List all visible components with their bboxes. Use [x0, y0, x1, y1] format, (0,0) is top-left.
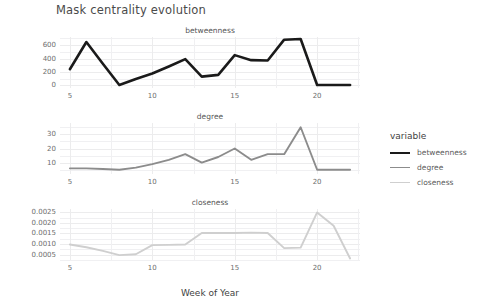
y-axis-tick-label: 400 [16, 55, 56, 63]
x-axis-tick-label: 15 [220, 178, 250, 186]
data-line [70, 127, 350, 170]
x-axis-tick-label: 10 [137, 92, 167, 100]
plot-area-closeness [60, 209, 360, 260]
panel-degree: degree 1020305101520 [60, 112, 360, 174]
y-axis-tick-label: 20 [16, 145, 56, 153]
legend-item[interactable]: betweenness [390, 148, 467, 157]
chart-title: Mask centrality evolution [56, 3, 206, 17]
x-axis-tick-label: 20 [302, 92, 332, 100]
legend-key-line-icon [390, 152, 410, 154]
legend-item-label: closeness [417, 178, 454, 187]
legend-item[interactable]: degree [390, 163, 467, 172]
legend-key-line-icon [390, 167, 410, 168]
x-axis-tick-label: 5 [55, 178, 85, 186]
x-axis-tick-label: 10 [137, 264, 167, 272]
panel-strip-label: degree [60, 112, 360, 121]
panel-strip-label: closeness [60, 198, 360, 207]
x-axis-tick-label: 20 [302, 178, 332, 186]
x-axis-tick-label: 15 [220, 92, 250, 100]
x-axis-tick-label: 10 [137, 178, 167, 186]
x-axis-tick-label: 5 [55, 92, 85, 100]
legend-item[interactable]: closeness [390, 178, 467, 187]
x-axis-title: Week of Year [60, 288, 360, 298]
data-line [70, 212, 350, 258]
y-axis-tick-label: 0 [16, 81, 56, 89]
plot-area-degree [60, 123, 360, 174]
y-axis-tick-label: 200 [16, 68, 56, 76]
y-axis-tick-label: 30 [16, 130, 56, 138]
series-line-betweenness [60, 37, 360, 90]
panel-strip-label: betweenness [60, 26, 360, 35]
x-axis-tick-label: 5 [55, 264, 85, 272]
data-line [70, 39, 350, 85]
y-axis-tick-label: 0.0015 [16, 229, 56, 237]
legend-title: variable [390, 131, 467, 141]
plot-area-betweenness [60, 37, 360, 88]
y-axis-tick-label: 0.0025 [16, 208, 56, 216]
y-axis-tick-label: 0.0010 [16, 240, 56, 248]
legend: variable betweennessdegreecloseness [390, 131, 467, 193]
series-line-degree [60, 123, 360, 176]
y-axis-tick-label: 600 [16, 41, 56, 49]
panel-betweenness: betweenness 02004006005101520 [60, 26, 360, 88]
legend-item-label: degree [417, 163, 443, 172]
panel-closeness: closeness 0.00050.00100.00150.00200.0025… [60, 198, 360, 260]
series-line-closeness [60, 209, 360, 262]
y-axis-tick-label: 0.0020 [16, 219, 56, 227]
legend-key-line-icon [390, 182, 410, 183]
y-axis-tick-label: 10 [16, 159, 56, 167]
chart-root: Mask centrality evolution betweenness 02… [0, 0, 497, 305]
legend-item-label: betweenness [417, 148, 467, 157]
legend-items: betweennessdegreecloseness [390, 148, 467, 187]
x-axis-tick-label: 20 [302, 264, 332, 272]
x-axis-tick-label: 15 [220, 264, 250, 272]
y-axis-tick-label: 0.0005 [16, 251, 56, 259]
